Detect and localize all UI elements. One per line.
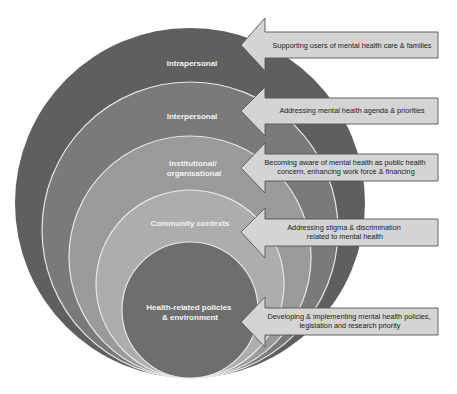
label-line: Institutional/	[169, 159, 217, 168]
label-interpersonal: Interpersonal	[167, 112, 218, 121]
label-community: Community contexts	[150, 219, 230, 228]
label-line: & environment	[162, 313, 218, 322]
arrow-line: Becoming aware of mental health as publi…	[264, 158, 425, 167]
label-intrapersonal: Intrapersonal	[167, 59, 218, 68]
arrow-line: related to mental health	[307, 232, 383, 241]
arrow-text: Addressing mental health agenda & priori…	[279, 106, 425, 115]
arrow-text: Becoming aware of mental health as publi…	[264, 158, 427, 176]
arrow-line: Addressing stigma & discrimination	[287, 223, 401, 232]
label-line: organisational	[167, 169, 222, 178]
label-institutional: Institutional/ organisational	[167, 159, 222, 178]
arrow-line: concern, enhancing work force & financin…	[277, 167, 415, 176]
arrow-line: Supporting users of mental health care &…	[273, 41, 432, 50]
socio-ecological-diagram: Intrapersonal Interpersonal Institutiona…	[0, 0, 457, 394]
label-line: Interpersonal	[167, 112, 218, 121]
label-line: Community contexts	[150, 219, 230, 228]
arrow-line: Developing & implementing mental health …	[267, 312, 430, 321]
label-line: Intrapersonal	[167, 59, 218, 68]
arrow-line: legislation and research priority	[300, 321, 401, 330]
arrow-line: Addressing mental health agenda & priori…	[279, 106, 425, 115]
label-line: Health-related policies	[146, 303, 232, 312]
arrow-text: Supporting users of mental health care &…	[273, 41, 432, 50]
